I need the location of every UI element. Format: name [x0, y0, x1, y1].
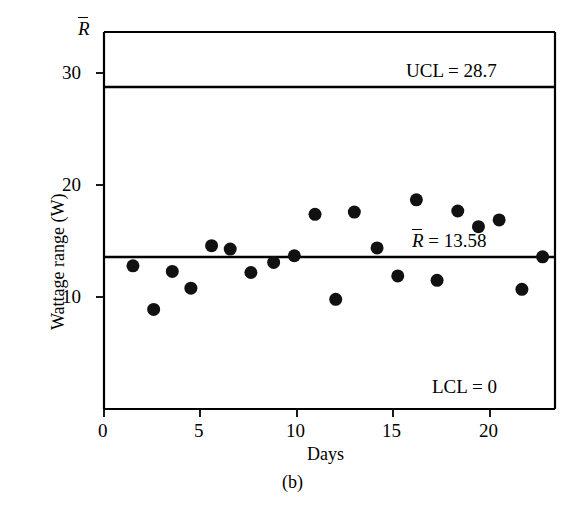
corner-label-text: R [78, 18, 90, 40]
data-point [267, 256, 280, 269]
y-axis-ticks [96, 73, 104, 297]
x-tick-label-15: 15 [382, 420, 401, 442]
center-line-label-value: = 13.58 [424, 230, 487, 251]
center-line-label: R = 13.58 [412, 230, 487, 252]
x-tick-label-10: 10 [286, 420, 305, 442]
lcl-label: LCL = 0 [432, 376, 497, 398]
r-control-chart-figure: R 30 20 10 0 5 10 15 20 Wattage range (W… [0, 0, 585, 507]
data-point [348, 206, 361, 219]
data-point [126, 259, 139, 272]
x-tick-label-0: 0 [98, 420, 108, 442]
data-point [431, 274, 444, 287]
data-point [224, 243, 237, 256]
ucl-label: UCL = 28.7 [406, 60, 497, 82]
center-line-label-symbol: R [412, 230, 424, 252]
x-tick-label-20: 20 [479, 420, 498, 442]
x-axis-title: Days [307, 444, 344, 465]
y-axis-symbol-label: R [78, 18, 90, 40]
data-point [309, 208, 322, 221]
data-point [391, 269, 404, 282]
data-point [184, 282, 197, 295]
data-point [205, 239, 218, 252]
data-point [288, 249, 301, 262]
data-point [147, 303, 160, 316]
data-point-group [126, 193, 549, 316]
data-point [166, 265, 179, 278]
x-tick-label-5: 5 [194, 420, 204, 442]
figure-caption: (b) [282, 472, 303, 493]
data-point [515, 283, 528, 296]
y-axis-title: Wattage range (W) [48, 194, 69, 330]
data-point [451, 204, 464, 217]
y-tick-label-30: 30 [62, 62, 81, 84]
plot-frame [104, 32, 555, 409]
data-point [371, 241, 384, 254]
data-point [244, 266, 257, 279]
data-point [536, 250, 549, 263]
data-point [493, 213, 506, 226]
data-point [329, 293, 342, 306]
x-axis-ticks [104, 409, 490, 417]
data-point [410, 193, 423, 206]
